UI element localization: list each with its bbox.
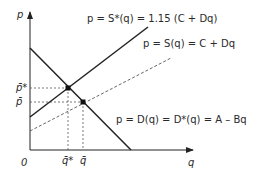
origin-label: 0 bbox=[21, 157, 27, 168]
supply-shifted-curve bbox=[30, 27, 148, 117]
price-label-original: p̄ bbox=[15, 96, 23, 107]
equilibrium-point-original bbox=[81, 100, 86, 105]
quantity-label-original: q̄ bbox=[80, 155, 86, 166]
demand-label: p = D(q) = D*(q) = A – Bq bbox=[116, 114, 247, 125]
quantity-label-shifted: q̄* bbox=[62, 155, 73, 166]
demand-curve bbox=[30, 48, 131, 150]
y-axis-label: p bbox=[16, 9, 23, 20]
x-axis-label: q bbox=[188, 157, 194, 168]
equilibrium-point-shifted bbox=[66, 86, 71, 91]
supply-demand-diagram: p q 0 p̄* p̄ q̄* q̄ p = S*(q) = 1.15 (C … bbox=[0, 0, 262, 173]
supply-label: p = S(q) = C + Dq bbox=[143, 38, 235, 49]
price-label-shifted: p̄* bbox=[15, 82, 27, 93]
supply-shifted-label: p = S*(q) = 1.15 (C + Dq) bbox=[87, 13, 217, 24]
